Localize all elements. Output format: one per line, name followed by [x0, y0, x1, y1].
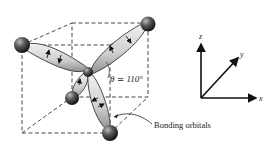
annotation-arrowhead [114, 114, 118, 118]
z-axis-label: z [198, 32, 203, 41]
atom-center [83, 67, 93, 77]
annotation-label: Bonding orbitals [154, 120, 211, 130]
coordinate-axes [201, 44, 256, 98]
y-axis-label: y [239, 50, 244, 59]
atom-top-left [14, 37, 30, 53]
annotation-leader [114, 114, 152, 124]
x-axis-label: x [258, 94, 263, 103]
angle-label: θ ≃ 110° [110, 74, 143, 84]
tetrahedral-bonding-diagram: θ ≃ 110° Bonding orbitals z y x [0, 0, 273, 150]
orbital-lobe-bottom [88, 72, 110, 130]
orbital-lobe-top-left [24, 43, 88, 71]
atom-bottom [102, 125, 118, 141]
y-axis [201, 58, 238, 98]
atom-top-right [141, 17, 156, 32]
orbital-lobe-top-right [91, 22, 147, 74]
atom-lower-left [65, 91, 79, 105]
